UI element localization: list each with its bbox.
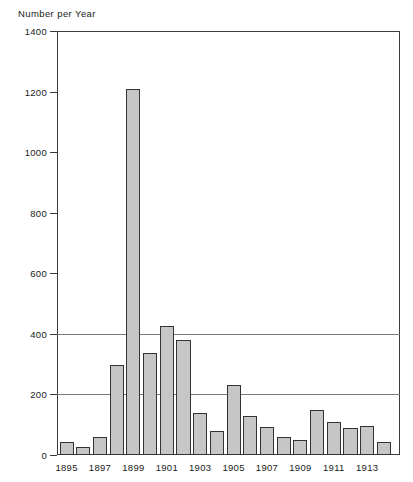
x-axis-label: 1907 bbox=[256, 462, 278, 473]
x-axis-label: 1911 bbox=[323, 462, 345, 473]
x-axis-label: 1909 bbox=[289, 462, 311, 473]
y-axis-tick bbox=[50, 334, 57, 335]
bar bbox=[343, 428, 357, 455]
bar bbox=[60, 442, 74, 455]
x-axis-label: 1897 bbox=[89, 462, 111, 473]
x-axis-label: 1905 bbox=[222, 462, 244, 473]
y-axis-label: 0 bbox=[7, 450, 47, 461]
x-axis-label: 1913 bbox=[356, 462, 378, 473]
bars-group bbox=[57, 31, 400, 455]
y-axis-label: 400 bbox=[7, 328, 47, 339]
bar bbox=[76, 447, 90, 455]
bar bbox=[193, 413, 207, 455]
x-axis-label: 1899 bbox=[122, 462, 144, 473]
bar bbox=[210, 431, 224, 455]
bar bbox=[227, 385, 241, 455]
bar bbox=[260, 427, 274, 455]
bar bbox=[293, 440, 307, 455]
y-axis-tick bbox=[50, 394, 57, 395]
y-axis-title: Number per Year bbox=[18, 8, 96, 19]
y-axis-label: 600 bbox=[7, 268, 47, 279]
y-axis-tick bbox=[50, 92, 57, 93]
bar bbox=[110, 365, 124, 455]
y-axis-label: 1000 bbox=[7, 147, 47, 158]
y-axis-tick bbox=[50, 455, 57, 456]
y-axis-label: 1200 bbox=[7, 86, 47, 97]
x-axis-label: 1903 bbox=[189, 462, 211, 473]
bar bbox=[176, 340, 190, 455]
bar-chart: Number per Year 020040060080010001200140… bbox=[0, 0, 413, 482]
y-axis-label: 200 bbox=[7, 389, 47, 400]
bar bbox=[93, 437, 107, 455]
x-axis-label: 1895 bbox=[55, 462, 77, 473]
bar bbox=[360, 426, 374, 455]
bar bbox=[327, 422, 341, 455]
y-axis-tick bbox=[50, 273, 57, 274]
y-axis-tick bbox=[50, 31, 57, 32]
bar bbox=[143, 353, 157, 455]
bar bbox=[126, 89, 140, 455]
bar bbox=[160, 326, 174, 455]
x-axis-label: 1901 bbox=[156, 462, 178, 473]
y-axis-label: 800 bbox=[7, 207, 47, 218]
y-axis-tick bbox=[50, 213, 57, 214]
bar bbox=[243, 416, 257, 455]
y-axis-label: 1400 bbox=[7, 26, 47, 37]
bar bbox=[377, 442, 391, 455]
y-axis-tick bbox=[50, 152, 57, 153]
bar bbox=[310, 410, 324, 455]
bar bbox=[277, 437, 291, 455]
